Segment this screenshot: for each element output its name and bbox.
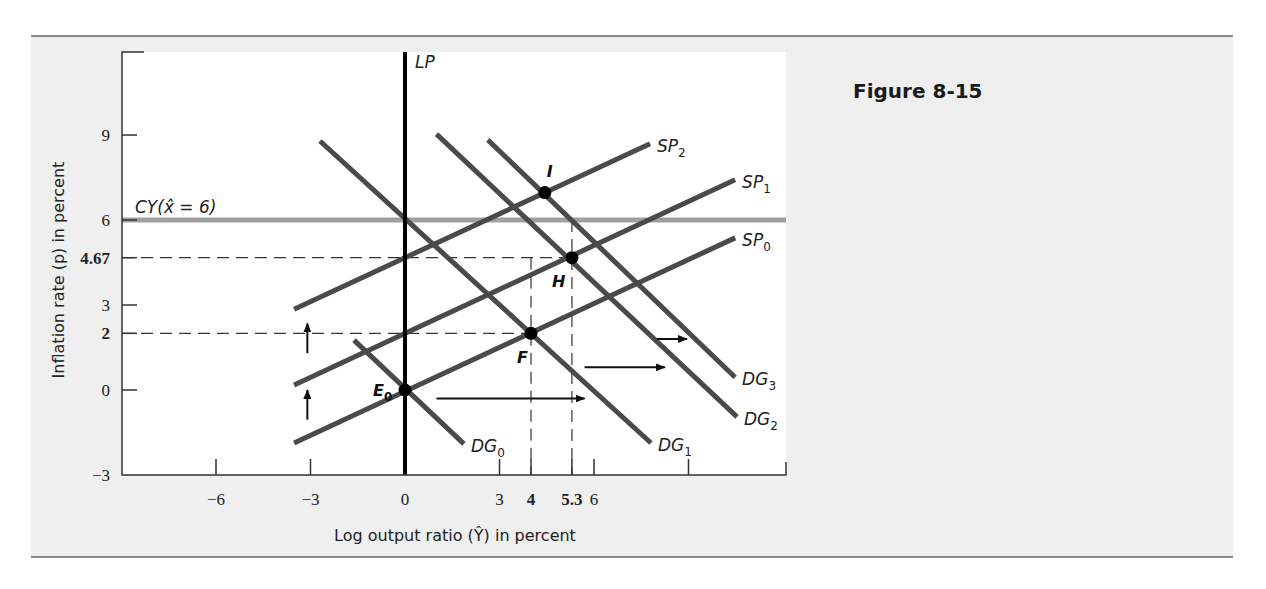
- x-tick-label: 5.3: [561, 490, 582, 509]
- x-tick-label: 0: [401, 490, 410, 509]
- y-tick-label: 2: [102, 324, 111, 343]
- point-e0: [399, 384, 412, 397]
- cy-label: CY(x̂ = 6): [135, 197, 216, 217]
- point-label-h: H: [552, 272, 566, 291]
- point-f: [525, 327, 538, 340]
- x-tick-label: 6: [590, 490, 599, 509]
- y-tick-label: 9: [102, 126, 111, 145]
- x-tick-label: −3: [301, 490, 319, 509]
- point-h: [565, 251, 578, 264]
- y-tick-label: 6: [102, 211, 111, 230]
- x-axis-title: Log output ratio (Ŷ) in percent: [334, 526, 576, 545]
- x-tick-label: −6: [207, 490, 225, 509]
- y-tick-label: 0: [102, 381, 111, 400]
- x-tick-label: 4: [527, 490, 536, 509]
- point-i: [538, 186, 551, 199]
- lp-label: LP: [415, 52, 435, 72]
- y-tick-label: 3: [102, 296, 111, 315]
- y-axis-title: Inflation rate (p) in percent: [49, 162, 68, 379]
- y-tick-label: 4.67: [80, 249, 110, 268]
- chart: −30234.6769−6−30345.36 LPCY(x̂ = 6)SP0SP…: [0, 0, 1266, 589]
- point-label-i: I: [547, 162, 553, 181]
- point-label-f: F: [517, 348, 528, 367]
- y-tick-label: −3: [92, 466, 110, 485]
- x-tick-label: 3: [495, 490, 504, 509]
